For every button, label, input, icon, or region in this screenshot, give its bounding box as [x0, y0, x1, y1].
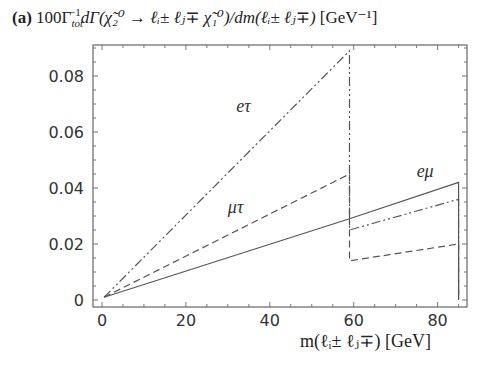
y-tick-label: 0.04	[48, 179, 84, 198]
x-tick-label: 60	[344, 311, 364, 330]
x-tick-label: 0	[97, 311, 107, 330]
plot-area: 00.020.040.060.08 020406080 eτμτeμ	[0, 0, 496, 375]
x-tick-label: 20	[176, 311, 196, 330]
curve-label: μτ	[227, 197, 244, 217]
axis-ticks	[93, 45, 467, 307]
plot-frame	[93, 45, 467, 307]
curve-dashed	[104, 174, 458, 300]
curve-labels: eτμτeμ	[227, 96, 434, 217]
x-axis-label: m(ℓᵢ± ℓⱼ∓) [GeV]	[300, 330, 431, 352]
curve-dash-dot-dot	[104, 51, 458, 300]
curve-label: eμ	[417, 161, 434, 181]
curves	[104, 51, 458, 300]
y-tick-label: 0	[74, 291, 84, 310]
x-tick-labels: 020406080	[97, 311, 448, 330]
y-tick-labels: 00.020.040.060.08	[48, 67, 84, 310]
x-tick-label: 40	[260, 311, 280, 330]
x-tick-label: 80	[427, 311, 447, 330]
y-tick-label: 0.02	[48, 235, 84, 254]
curve-label: eτ	[236, 96, 251, 116]
y-tick-label: 0.08	[48, 67, 84, 86]
curve-solid	[104, 182, 458, 300]
y-tick-label: 0.06	[48, 123, 84, 142]
